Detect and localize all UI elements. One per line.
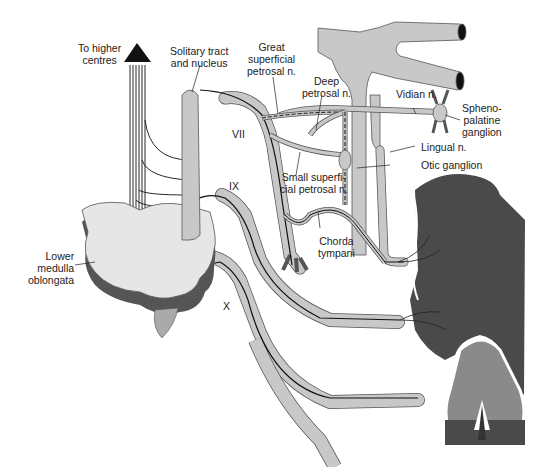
label-solitary-tract: Solitary tract and nucleus [170,45,228,69]
label-deep-petrosal: Deep petrosal n. [302,75,351,99]
label-vidian-nerve: Vidian n. [396,88,437,100]
label-cn-x: X [223,300,230,312]
label-otic-ganglion: Otic ganglion [421,159,482,171]
small-superficial-petrosal [270,135,345,155]
label-great-superficial-petrosal: Great superficial petrosal n. [247,41,296,77]
spinal-stump [154,308,178,338]
label-higher-centres: To higher centres [78,42,121,66]
arrow-head-icon [124,43,151,62]
label-cn-ix: IX [229,180,239,192]
otic-ganglion [339,150,351,170]
label-lower-medulla: Lower medulla oblongata [28,250,74,286]
label-chorda-tympani: Chorda tympani [318,235,355,259]
vagus-nerve-x [180,258,418,467]
label-sphenopalatine-ganglion: Spheno- palatine ganglion [462,102,502,138]
label-small-superficial-petrosal: Small superfi- cial petrosal n. [280,171,348,195]
label-cn-vii: VII [232,128,245,140]
solitary-tract [182,90,200,240]
label-lingual-nerve: Lingual n. [421,141,467,153]
